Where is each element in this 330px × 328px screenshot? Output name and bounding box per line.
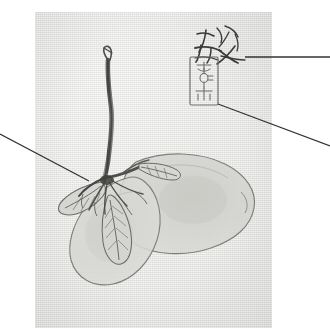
figure-root: ua)	[0, 0, 330, 328]
artwork-panel	[35, 12, 272, 328]
panel-vignette	[35, 12, 272, 328]
figure-caption: ua)	[0, 257, 22, 269]
